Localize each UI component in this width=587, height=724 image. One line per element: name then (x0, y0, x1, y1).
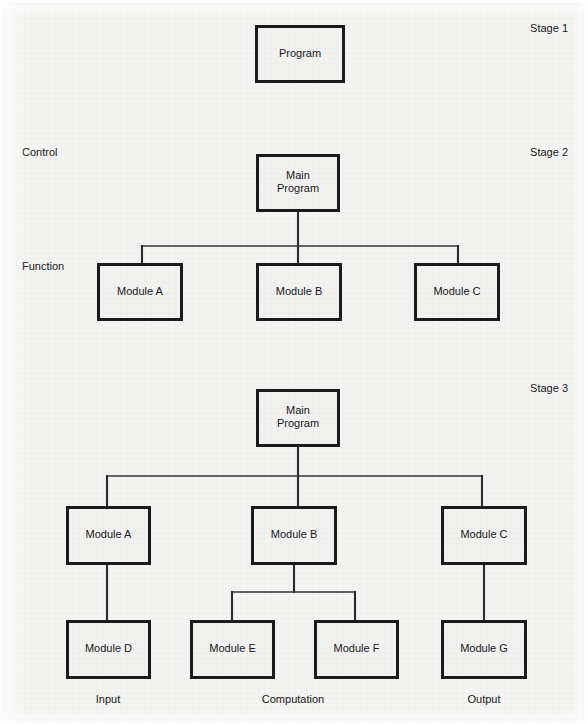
node-label-s3-module-a: Module A (86, 528, 133, 540)
node-s3-module-d[interactable]: Module D (68, 622, 150, 678)
footer-labels-layer: InputComputationOutput (96, 693, 501, 705)
node-label-s3-module-f: Module F (334, 642, 380, 654)
nodes-layer: ProgramMainProgramModule AModule BModule… (68, 27, 526, 678)
node-s1-program[interactable]: Program (257, 27, 344, 82)
node-label-s2-module-a: Module A (117, 285, 164, 297)
node-label-s2-main: Main (286, 169, 310, 181)
node-s3-module-c[interactable]: Module C (443, 508, 526, 564)
node-label-s3-module-b: Module B (271, 528, 317, 540)
side-label-function: Function (22, 260, 64, 272)
node-s2-main[interactable]: MainProgram (258, 156, 339, 211)
node-s2-module-b[interactable]: Module B (258, 265, 341, 320)
node-label-s2-module-c: Module C (433, 285, 480, 297)
node-s3-main[interactable]: MainProgram (258, 391, 339, 446)
side-labels-layer: ControlFunction (22, 146, 64, 272)
node-s3-module-g[interactable]: Module G (443, 622, 526, 678)
node-label-s2-module-b: Module B (276, 285, 322, 297)
structure-chart-diagram: ProgramMainProgramModule AModule BModule… (0, 0, 587, 724)
stage-labels-layer: Stage 1Stage 2Stage 3 (530, 22, 568, 394)
node-label-s3-module-g: Module G (460, 642, 508, 654)
footer-label-output: Output (467, 693, 500, 705)
footer-label-input: Input (96, 693, 120, 705)
stage-label-3: Stage 3 (530, 382, 568, 394)
node-label-s3-module-c: Module C (460, 528, 507, 540)
node-s2-module-a[interactable]: Module A (99, 265, 182, 320)
node-label-s3-module-d: Module D (85, 642, 132, 654)
node-s3-module-a[interactable]: Module A (68, 508, 150, 564)
page-frame (4, 4, 583, 720)
side-label-control: Control (22, 146, 57, 158)
stage-label-1: Stage 1 (530, 22, 568, 34)
node-s3-module-b[interactable]: Module B (253, 508, 336, 564)
node-label-s1-program: Program (279, 47, 321, 59)
node-label-s3-main: Main (286, 404, 310, 416)
stage-label-2: Stage 2 (530, 146, 568, 158)
node-s3-module-f[interactable]: Module F (316, 622, 398, 678)
node-s2-module-c[interactable]: Module C (416, 265, 499, 320)
footer-label-computation: Computation (262, 693, 324, 705)
node-label-s3-main: Program (277, 417, 319, 429)
diagram-page: ProgramMainProgramModule AModule BModule… (0, 0, 587, 724)
node-s3-module-e[interactable]: Module E (192, 622, 274, 678)
node-label-s3-module-e: Module E (209, 642, 255, 654)
node-label-s2-main: Program (277, 182, 319, 194)
